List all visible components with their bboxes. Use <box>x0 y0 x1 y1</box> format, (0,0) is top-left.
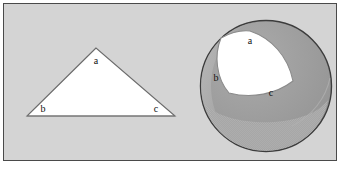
planar-vertex-label-a: a <box>94 56 98 66</box>
figure-canvas <box>0 0 344 172</box>
spherical-vertex-label-b: b <box>214 73 219 83</box>
sphere-group <box>200 21 331 152</box>
figure-root: a b c a b c <box>0 0 344 172</box>
spherical-vertex-label-a: a <box>248 36 252 46</box>
spherical-vertex-label-c: c <box>269 88 273 98</box>
planar-vertex-label-b: b <box>41 104 46 114</box>
planar-vertex-label-c: c <box>154 104 158 114</box>
